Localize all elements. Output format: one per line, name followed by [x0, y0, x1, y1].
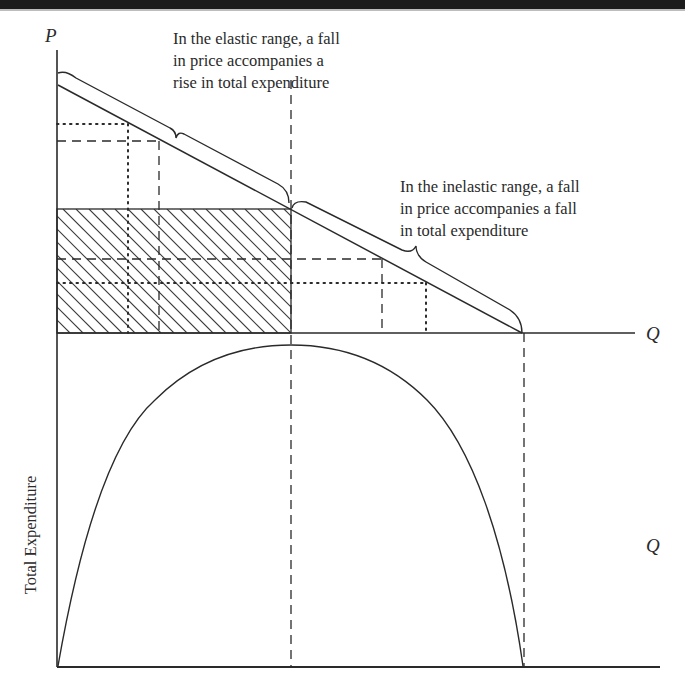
- price-axis-label: P: [44, 25, 57, 46]
- total-expenditure-panel: Total Expenditure Q: [21, 333, 660, 667]
- quantity-axis-label-top: Q: [646, 323, 660, 344]
- elastic-annotation: In the elastic range, a fall in price ac…: [173, 29, 344, 92]
- total-expenditure-axis-label: Total Expenditure: [21, 476, 40, 594]
- inelastic-annotation: In the inelastic range, a fall in price …: [400, 177, 584, 240]
- quantity-axis-label-bottom: Q: [646, 535, 660, 556]
- vertical-guide-lines: [291, 80, 524, 666]
- demand-panel: P Q In the elastic range, a fall in pric…: [0, 25, 660, 666]
- hatched-expenditure-rectangle: [0, 209, 408, 333]
- elasticity-diagram: P Q In the elastic range, a fall in pric…: [0, 0, 685, 687]
